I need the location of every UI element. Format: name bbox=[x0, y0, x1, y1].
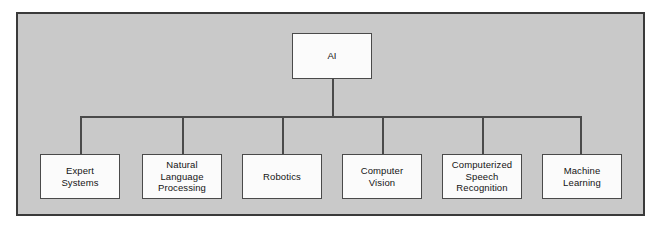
node-computer-vision[interactable]: Computer Vision bbox=[342, 154, 422, 199]
connector-drop-machine-learning bbox=[580, 116, 582, 154]
node-label: Robotics bbox=[243, 171, 321, 183]
connector-horizontal-bus bbox=[80, 116, 580, 118]
node-root-ai[interactable]: AI bbox=[292, 33, 372, 79]
connector-drop-expert-systems bbox=[80, 116, 82, 154]
node-label: AI bbox=[293, 50, 371, 62]
node-label: Machine Learning bbox=[543, 165, 621, 188]
connector-drop-robotics bbox=[282, 116, 284, 154]
connector-drop-computer-vision bbox=[382, 116, 384, 154]
node-label: Computer Vision bbox=[343, 165, 421, 188]
node-label: Expert Systems bbox=[41, 165, 119, 188]
node-natural-language-processing[interactable]: Natural Language Processing bbox=[142, 154, 222, 199]
node-label: Natural Language Processing bbox=[143, 159, 221, 194]
node-label: Computerized Speech Recognition bbox=[443, 159, 521, 194]
node-robotics[interactable]: Robotics bbox=[242, 154, 322, 199]
connector-drop-computerized-speech-recognition bbox=[482, 116, 484, 154]
connector-drop-natural-language-processing bbox=[182, 116, 184, 154]
node-expert-systems[interactable]: Expert Systems bbox=[40, 154, 120, 199]
node-computerized-speech-recognition[interactable]: Computerized Speech Recognition bbox=[442, 154, 522, 199]
node-machine-learning[interactable]: Machine Learning bbox=[542, 154, 622, 199]
diagram-panel: AI Expert Systems Natural Language Proce… bbox=[16, 12, 645, 216]
diagram-canvas: AI Expert Systems Natural Language Proce… bbox=[0, 0, 660, 233]
connector-root-stem bbox=[332, 79, 334, 116]
